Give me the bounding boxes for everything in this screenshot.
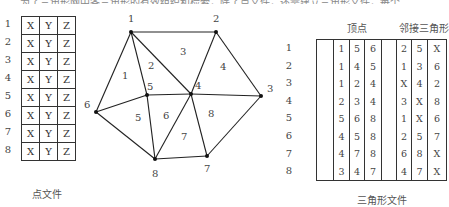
triangle-row: 124X42 <box>317 75 447 93</box>
mesh-edge <box>207 96 261 156</box>
vertex-cell: 4 <box>334 145 350 163</box>
node-label: 8 <box>152 168 158 179</box>
triangle-row-number: 2 <box>283 60 295 71</box>
empty-cell <box>382 128 397 146</box>
adjacent-triangles-header: 邻接三角形 <box>399 20 449 35</box>
vertex-cell: 7 <box>365 163 382 181</box>
mesh-node <box>259 94 263 98</box>
triangle-row: 34747X <box>317 163 447 181</box>
adjacent-cell: 2 <box>428 75 447 93</box>
mesh-edge <box>96 95 147 112</box>
adjacent-cell: 7 <box>428 128 447 146</box>
mesh-node <box>214 30 218 34</box>
empty-cell <box>382 58 397 76</box>
triangle-row: 47868X <box>317 145 447 163</box>
adjacent-cell: 3 <box>412 58 428 76</box>
vertex-cell: 6 <box>350 110 365 128</box>
adjacent-cell: 5 <box>412 40 428 58</box>
node-label: 5 <box>147 81 153 92</box>
triangle-label: 7 <box>181 131 187 142</box>
triangle-row-number: 3 <box>283 77 295 88</box>
empty-cell <box>382 163 397 181</box>
triangle-label: 8 <box>208 108 214 119</box>
mesh-edge <box>155 156 207 159</box>
empty-cell <box>317 110 334 128</box>
mesh-edge <box>147 95 155 159</box>
node-label: 6 <box>84 99 90 110</box>
triangle-row: 15625X <box>317 40 447 58</box>
vertex-cell: 5 <box>350 128 365 146</box>
empty-cell <box>382 75 397 93</box>
vertex-cell: 6 <box>365 40 382 58</box>
vertex-cell: 1 <box>334 40 350 58</box>
vertex-cell: 5 <box>350 40 365 58</box>
mesh-edge <box>191 94 261 96</box>
mesh-node <box>145 93 149 97</box>
triangle-row-number: 6 <box>283 130 295 141</box>
vertex-cell: 2 <box>334 93 350 111</box>
adjacent-cell: X <box>397 75 412 93</box>
triangle-file-table: 15625X145136124X422343X85681X64582574786… <box>316 39 447 181</box>
vertex-cell: 3 <box>350 93 365 111</box>
triangle-row-number: 4 <box>283 95 295 106</box>
mesh-node <box>153 157 157 161</box>
mesh-edge <box>155 94 191 159</box>
mesh-edge <box>147 94 191 95</box>
mesh-edge <box>191 94 207 156</box>
empty-cell <box>382 145 397 163</box>
mesh-node <box>189 92 193 96</box>
vertex-cell: 3 <box>334 163 350 181</box>
empty-cell <box>317 58 334 76</box>
triangle-row-number: 5 <box>283 112 295 123</box>
mesh-node <box>129 30 133 34</box>
adjacent-cell: 3 <box>397 93 412 111</box>
triangle-row: 458257 <box>317 128 447 146</box>
empty-cell <box>382 93 397 111</box>
node-label: 1 <box>128 13 134 24</box>
vertex-cell: 5 <box>334 110 350 128</box>
triangle-row-number: 7 <box>283 148 295 159</box>
mesh-edge <box>131 32 147 95</box>
vertex-cell: 4 <box>365 93 382 111</box>
empty-cell <box>317 93 334 111</box>
vertex-cell: 4 <box>350 163 365 181</box>
adjacent-cell: 7 <box>412 163 428 181</box>
triangle-file-caption: 三角形文件 <box>357 192 407 207</box>
adjacent-cell: 4 <box>397 163 412 181</box>
node-label: 2 <box>213 13 219 24</box>
empty-cell <box>382 40 397 58</box>
mesh-node <box>94 110 98 114</box>
empty-cell <box>317 75 334 93</box>
vertex-cell: 5 <box>365 58 382 76</box>
vertex-cell: 8 <box>365 128 382 146</box>
adjacent-cell: 1 <box>397 58 412 76</box>
triangle-row: 2343X8 <box>317 93 447 111</box>
adjacent-cell: X <box>428 163 447 181</box>
vertices-header: 顶点 <box>347 20 367 35</box>
adjacent-cell: 5 <box>412 128 428 146</box>
adjacent-cell: X <box>428 145 447 163</box>
triangle-label: 6 <box>163 110 169 121</box>
vertex-cell: 4 <box>334 128 350 146</box>
triangle-label: 1 <box>122 70 128 81</box>
vertex-cell: 8 <box>365 110 382 128</box>
triangle-label: 4 <box>220 61 226 72</box>
vertex-cell: 4 <box>350 58 365 76</box>
empty-cell <box>317 145 334 163</box>
adjacent-cell: X <box>428 40 447 58</box>
node-label: 7 <box>204 163 210 174</box>
triangle-row: 145136 <box>317 58 447 76</box>
adjacent-cell: X <box>412 110 428 128</box>
triangle-label: 3 <box>180 46 186 57</box>
triangle-row-number: 1 <box>283 42 295 53</box>
adjacent-cell: 4 <box>412 75 428 93</box>
triangle-label: 5 <box>135 112 141 123</box>
triangle-row: 5681X6 <box>317 110 447 128</box>
vertex-cell: 1 <box>334 58 350 76</box>
mesh-node <box>205 154 209 158</box>
adjacent-cell: 2 <box>397 40 412 58</box>
adjacent-cell: 1 <box>397 110 412 128</box>
adjacent-cell: 2 <box>397 128 412 146</box>
node-label: 3 <box>267 83 273 94</box>
mesh-edge <box>96 112 155 159</box>
